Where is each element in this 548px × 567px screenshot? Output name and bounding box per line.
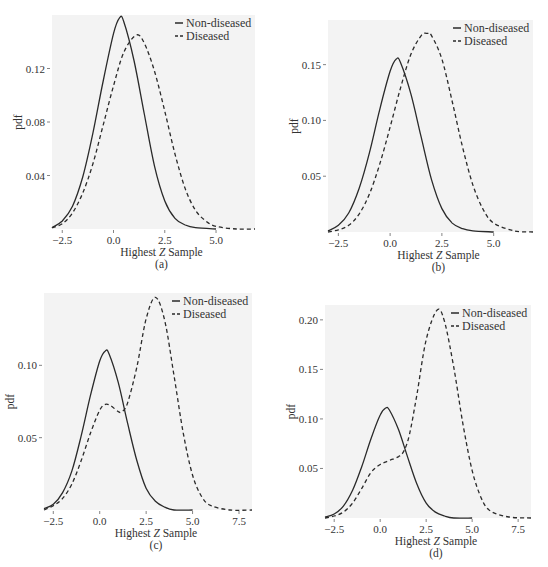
x-tick-label: 2.5 (139, 515, 153, 527)
y-tick-label: 0.04 (26, 170, 46, 182)
x-tick-label: 2.5 (419, 523, 433, 535)
x-tick-label: −2.5 (324, 523, 344, 535)
legend-label: Non-diseased (462, 306, 527, 320)
panel-label: (d) (429, 547, 443, 560)
y-tick-label: 0.10 (299, 413, 319, 425)
x-tick-label: 5.0 (209, 234, 223, 246)
panel-d: −2.50.02.55.07.50.050.100.150.20Highest … (285, 305, 531, 560)
y-tick-label: 0.12 (26, 63, 45, 75)
plot-background (328, 20, 533, 232)
y-axis-title: pdf (285, 404, 298, 420)
x-tick-label: 0.0 (383, 237, 397, 249)
y-axis-title: pdf (12, 114, 25, 130)
legend-label: Diseased (183, 307, 226, 321)
x-axis-title-rest: Sample (440, 535, 477, 548)
x-tick-label: 2.5 (158, 234, 172, 246)
x-tick-label: 7.5 (232, 515, 246, 527)
panel-b: −2.50.02.55.00.050.100.15Highest Z Sampl… (288, 20, 533, 274)
y-axis-title: pdf (4, 394, 17, 410)
legend-label: Diseased (464, 34, 507, 48)
x-axis-title-rest: Sample (165, 246, 202, 259)
x-tick-label: 5.0 (487, 237, 501, 249)
y-tick-label: 0.10 (18, 359, 38, 371)
x-tick-label: −2.5 (328, 237, 348, 249)
y-tick-label: 0.08 (26, 116, 46, 128)
legend-label: Diseased (462, 319, 505, 333)
x-tick-label: 0.0 (107, 234, 121, 246)
panel-a: −2.50.02.55.00.040.080.12Highest Z Sampl… (12, 15, 255, 271)
plot-background (52, 15, 255, 229)
x-tick-label: 2.5 (435, 237, 449, 249)
y-tick-label: 0.05 (18, 432, 38, 444)
plot-background (325, 305, 531, 518)
x-tick-label: −2.5 (52, 234, 72, 246)
legend-label: Diseased (186, 29, 229, 43)
panel-label: (b) (432, 261, 446, 274)
x-tick-label: 0.0 (373, 523, 387, 535)
panel-label: (a) (155, 258, 168, 271)
y-tick-label: 0.15 (302, 59, 322, 71)
panel-label: (c) (150, 539, 163, 552)
x-axis-title-rest: Sample (442, 249, 479, 262)
x-tick-label: −2.5 (43, 515, 63, 527)
x-tick-label: 7.5 (511, 523, 525, 535)
y-tick-label: 0.15 (299, 363, 319, 375)
legend-label: Non-diseased (183, 294, 248, 308)
panel-c: −2.50.02.55.07.50.050.10Highest Z Sample… (4, 293, 252, 552)
y-axis-title: pdf (288, 118, 301, 134)
y-tick-label: 0.10 (302, 114, 322, 126)
legend-label: Non-diseased (464, 21, 529, 35)
legend-label: Non-diseased (186, 16, 251, 30)
figure: −2.50.02.55.00.040.080.12Highest Z Sampl… (0, 0, 548, 567)
x-tick-label: 5.0 (465, 523, 479, 535)
x-axis-title-rest: Sample (160, 527, 197, 540)
x-tick-label: 5.0 (186, 515, 200, 527)
y-tick-label: 0.05 (302, 170, 322, 182)
y-tick-label: 0.05 (299, 462, 319, 474)
plot-background (44, 293, 252, 510)
x-tick-label: 0.0 (93, 515, 107, 527)
y-tick-label: 0.20 (299, 314, 319, 326)
